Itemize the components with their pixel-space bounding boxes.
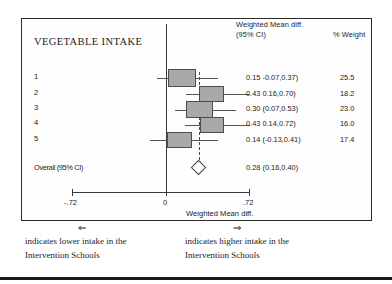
x-tick-label-right: .72 — [243, 198, 254, 207]
effect-box-2 — [199, 86, 224, 102]
x-tick-left — [72, 189, 73, 196]
plot-frame — [21, 18, 372, 221]
x-tick-label-center: 0 — [163, 198, 167, 207]
column-header-weight: % Weight — [333, 30, 365, 39]
value-label-1: 0.15 -0.07,0.37) — [246, 73, 298, 82]
forest-plot-figure: Weighted Mean diff. (95% CI) % Weight VE… — [0, 0, 392, 284]
weight-label-3: 23.0 — [340, 104, 354, 113]
left-arrow-icon: ⇐ — [78, 222, 86, 233]
value-label-2: 0.43 0.16,0.70) — [246, 89, 296, 98]
x-tick-center — [166, 189, 167, 196]
weight-label-1: 25.5 — [340, 73, 354, 82]
x-axis-title: Weighted Mean diff. — [186, 209, 253, 218]
footer-left-line1: indicates lower intake in the — [25, 236, 126, 246]
weight-label-5: 17.4 — [340, 135, 354, 144]
value-label-4: 0.43 0.14,0.72) — [246, 119, 296, 128]
study-label-2: 2 — [34, 88, 38, 97]
study-label-5: 5 — [34, 134, 38, 143]
study-label-1: 1 — [34, 72, 38, 81]
weight-label-2: 18.2 — [340, 89, 354, 98]
weight-label-4: 16.0 — [340, 119, 354, 128]
x-tick-label-left: -.72 — [64, 198, 77, 207]
study-label-3: 3 — [34, 103, 38, 112]
null-effect-line — [166, 24, 167, 191]
bottom-divider — [0, 277, 392, 280]
effect-box-1 — [168, 69, 196, 87]
effect-box-4 — [200, 117, 224, 133]
plot-title: VEGETABLE INTAKE — [34, 36, 142, 47]
value-label-5: 0.14 (-0.13,0.41) — [246, 135, 301, 144]
effect-box-3 — [186, 101, 213, 118]
column-header-weighted-mean-diff: Weighted Mean diff. — [236, 20, 303, 29]
footer-left-line2: Intervention Schools — [25, 250, 100, 260]
footer-right-line1: indicates higher intake in the — [185, 236, 289, 246]
overall-value-label: 0.28 (0.16,0.40) — [246, 163, 298, 172]
x-axis-line — [72, 192, 250, 193]
value-label-3: 0.30 (0.07,0.53) — [246, 104, 298, 113]
overall-diamond — [188, 162, 212, 174]
right-arrow-icon: ⇒ — [233, 222, 241, 233]
footer-right-line2: Intervention Schools — [185, 250, 260, 260]
study-label-4: 4 — [34, 118, 38, 127]
effect-box-5 — [167, 132, 192, 148]
column-header-ci: (95% CI) — [236, 30, 266, 39]
x-tick-right — [249, 189, 250, 196]
overall-label: Overall (95% CI) — [34, 163, 83, 172]
